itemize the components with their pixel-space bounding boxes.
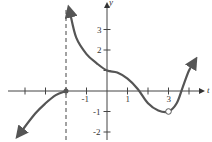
x-tick-label: 3 [167,94,172,104]
y-tick-label: 3 [97,25,102,35]
x-axis-label: t [207,85,210,95]
y-tick-label: -2 [93,127,101,137]
y-tick-label: 2 [97,45,102,55]
x-tick-label: 1 [126,94,131,104]
open-point [166,109,172,115]
plot-area: ty-11332-1-2 [0,0,212,142]
y-axis-label: y [108,0,113,7]
left-branch-curve [21,91,66,132]
function-graph: ty-11332-1-2 [0,0,212,142]
y-tick-label: -1 [93,107,101,117]
x-tick-label: -1 [82,94,90,104]
closed-point [64,89,69,94]
